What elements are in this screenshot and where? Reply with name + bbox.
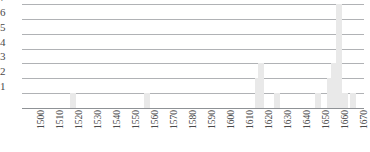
gridline-y-3 bbox=[22, 64, 364, 65]
x-tick-label: 1540 bbox=[112, 110, 122, 150]
bar bbox=[274, 93, 280, 108]
x-tick-label: 1650 bbox=[321, 110, 331, 150]
x-tick-label: 1640 bbox=[302, 110, 312, 150]
gridline-y-7 bbox=[22, 4, 364, 5]
bar bbox=[70, 93, 76, 108]
x-tick-label: 1670 bbox=[359, 110, 369, 150]
bar bbox=[144, 93, 150, 108]
x-axis-tick-labels: 1500151015201530154015501560157015801590… bbox=[22, 110, 364, 150]
gridline-y-6 bbox=[22, 19, 364, 20]
x-tick-label: 1570 bbox=[169, 110, 179, 150]
x-tick-label: 1660 bbox=[340, 110, 350, 150]
x-tick-label: 1610 bbox=[245, 110, 255, 150]
x-tick-label: 1550 bbox=[131, 110, 141, 150]
gridline-y-5 bbox=[22, 34, 364, 35]
y-tick-label: 7 bbox=[0, 0, 18, 3]
x-tick-label: 1620 bbox=[264, 110, 274, 150]
y-tick-label: 5 bbox=[0, 22, 18, 33]
bar bbox=[342, 93, 348, 108]
bar-chart: 1234567 15001510152015301540155015601570… bbox=[0, 0, 370, 152]
x-tick-label: 1520 bbox=[74, 110, 84, 150]
gridline-y-2 bbox=[22, 78, 364, 79]
x-tick-label: 1580 bbox=[188, 110, 198, 150]
y-tick-label: 4 bbox=[0, 37, 18, 48]
y-tick-label: 2 bbox=[0, 66, 18, 77]
x-tick-label: 1560 bbox=[150, 110, 160, 150]
x-tick-label: 1600 bbox=[226, 110, 236, 150]
bar bbox=[315, 93, 321, 108]
plot-area bbox=[22, 4, 364, 108]
x-tick-label: 1530 bbox=[93, 110, 103, 150]
x-tick-label: 1510 bbox=[55, 110, 65, 150]
y-tick-label: 3 bbox=[0, 51, 18, 62]
y-tick-label: 6 bbox=[0, 7, 18, 18]
y-tick-label: 1 bbox=[0, 81, 18, 92]
bar bbox=[258, 63, 264, 108]
bar bbox=[350, 93, 356, 108]
axis-baseline bbox=[22, 108, 364, 109]
x-tick-label: 1590 bbox=[207, 110, 217, 150]
x-tick-label: 1500 bbox=[36, 110, 46, 150]
gridline-y-4 bbox=[22, 49, 364, 50]
x-tick-label: 1630 bbox=[283, 110, 293, 150]
